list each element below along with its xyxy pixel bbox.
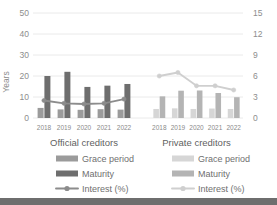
x-axis-tick-label: 2018	[37, 124, 52, 131]
x-axis-tick-label: 2021	[97, 124, 112, 131]
y-axis-tick-right: 3	[253, 92, 258, 102]
x-axis-tick-label: 2022	[117, 124, 132, 131]
legend-label: Grace period	[198, 154, 250, 164]
x-axis-tick-label: 2019	[57, 124, 72, 131]
y-axis-tick-left: 50	[20, 8, 30, 18]
x-axis-tick-label: 2020	[77, 124, 92, 131]
legend-swatch-maturity	[56, 171, 78, 177]
legend-label: Maturity	[198, 169, 231, 179]
x-axis-tick-label: 2020	[189, 124, 204, 131]
bar-maturity	[234, 97, 240, 118]
top-crop-strip	[0, 0, 277, 3]
legend-label: Grace period	[82, 154, 134, 164]
y-axis-tick-right: 6	[253, 71, 258, 81]
legend-marker-interest	[180, 186, 185, 191]
bar-grace-period	[172, 108, 178, 118]
bar-grace-period	[78, 110, 84, 118]
x-axis-tick-label: 2022	[226, 124, 241, 131]
legend-swatch-grace-period	[56, 156, 78, 162]
line-marker-interest	[82, 102, 86, 106]
y-axis-tick-left: 20	[20, 71, 30, 81]
line-marker-interest	[42, 98, 46, 102]
line-marker-interest	[232, 88, 236, 92]
bar-maturity	[178, 91, 184, 118]
bar-grace-period	[98, 109, 104, 118]
x-axis-tick-label: 2021	[208, 124, 223, 131]
bar-maturity	[44, 76, 50, 118]
y-axis-label: Years	[1, 71, 11, 92]
chart-canvas: 5040302010015129630Years2018201920202021…	[0, 0, 277, 205]
y-axis-tick-right: 12	[253, 29, 263, 39]
bar-grace-period	[228, 109, 234, 118]
bar-grace-period	[38, 108, 44, 118]
y-axis-tick-right: 9	[253, 50, 258, 60]
legend-swatch-maturity	[172, 171, 194, 177]
bar-grace-period	[153, 109, 159, 118]
x-axis-tick-label: 2019	[171, 124, 186, 131]
legend-label: Interest (%)	[198, 184, 245, 194]
x-axis-tick-label: 2018	[152, 124, 167, 131]
panel-title: Private creditors	[162, 137, 231, 148]
panel-title: Official creditors	[50, 137, 118, 148]
y-axis-tick-right: 0	[253, 113, 258, 123]
line-marker-interest	[194, 84, 198, 88]
bar-grace-period	[191, 109, 197, 118]
bar-grace-period	[58, 109, 64, 118]
y-axis-tick-left: 30	[20, 50, 30, 60]
bar-grace-period	[118, 110, 124, 118]
legend-label: Maturity	[82, 169, 115, 179]
line-marker-interest	[122, 97, 126, 101]
y-axis-tick-right: 15	[253, 8, 263, 18]
line-marker-interest	[157, 74, 161, 78]
y-axis-tick-left: 10	[20, 92, 30, 102]
y-axis-tick-left: 40	[20, 29, 30, 39]
legend-marker-interest	[64, 186, 69, 191]
bar-maturity	[64, 72, 70, 118]
bar-grace-period	[209, 109, 215, 118]
legend-label: Interest (%)	[82, 184, 129, 194]
line-marker-interest	[213, 84, 217, 88]
line-marker-interest	[176, 70, 180, 74]
line-marker-interest	[102, 101, 106, 105]
bar-maturity	[215, 93, 221, 118]
line-marker-interest	[62, 101, 66, 105]
legend-swatch-grace-period	[172, 156, 194, 162]
footer-bar	[0, 198, 277, 205]
chart-figure: 5040302010015129630Years2018201920202021…	[0, 0, 277, 205]
bar-maturity	[160, 96, 166, 118]
bar-maturity	[197, 90, 203, 118]
y-axis-tick-left: 0	[24, 113, 29, 123]
